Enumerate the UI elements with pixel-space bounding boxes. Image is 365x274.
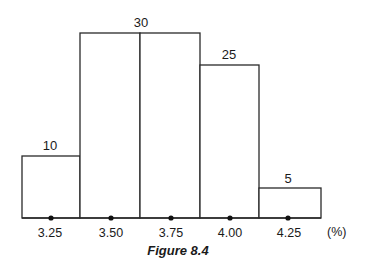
midpoint-dot-icon [227, 215, 232, 220]
midpoint-dot-icon [48, 215, 53, 220]
value-label-4-00: 25 [222, 47, 236, 62]
x-tick-label: 4.00 [218, 226, 242, 240]
figure-caption: Figure 8.4 [147, 243, 209, 258]
x-tick-label: 3.50 [99, 226, 123, 240]
value-label-4-25: 5 [284, 171, 291, 186]
histogram-chart: 10 30 25 5 3.25 3.50 3.75 4.00 4.25 (%) … [0, 0, 365, 274]
midpoint-dot-icon [285, 215, 290, 220]
x-axis-unit: (%) [327, 225, 346, 239]
midpoint-dot-icon [108, 215, 113, 220]
bar-4-25 [259, 188, 321, 218]
value-label-3-25: 10 [43, 138, 57, 153]
x-tick-label: 3.75 [159, 226, 183, 240]
x-tick-labels: 3.25 3.50 3.75 4.00 4.25 [38, 226, 301, 240]
x-tick-label: 4.25 [277, 226, 301, 240]
midpoint-dot-icon [168, 215, 173, 220]
bar-3-75 [140, 33, 200, 218]
bar-3-25 [22, 156, 80, 218]
value-label-3-50-3-75: 30 [134, 15, 148, 30]
x-tick-label: 3.25 [38, 226, 62, 240]
bar-4-00 [200, 65, 259, 218]
bars [22, 33, 321, 218]
bar-3-50 [80, 33, 140, 218]
